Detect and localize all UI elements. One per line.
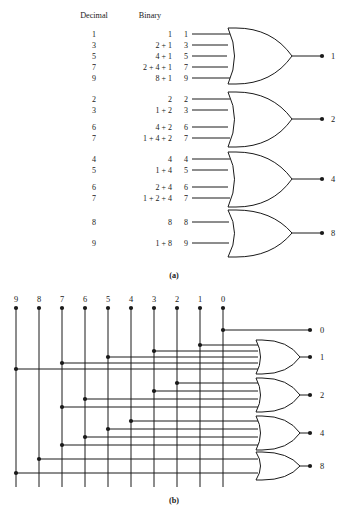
column-terminal: [152, 306, 156, 310]
junction-dot: [129, 419, 133, 423]
junction-dot: [60, 443, 64, 447]
output-terminal: [308, 464, 312, 468]
column-label: 5: [106, 295, 110, 304]
column-terminal: [106, 306, 110, 310]
output-label: 8: [320, 462, 324, 471]
output-terminal: [308, 355, 312, 359]
caption-b: (b): [169, 496, 179, 505]
column-terminal: [83, 306, 87, 310]
junction-dot: [106, 355, 110, 359]
column-label: 0: [221, 295, 225, 304]
column-label: 1: [198, 295, 202, 304]
column-label: 4: [129, 295, 134, 304]
column-label: 8: [37, 295, 41, 304]
output-terminal: [308, 328, 312, 332]
column-label: 2: [175, 295, 179, 304]
column-terminal: [221, 306, 225, 310]
column-label: 9: [14, 295, 18, 304]
junction-dot: [152, 349, 156, 353]
column-terminal: [60, 306, 64, 310]
column-terminal: [175, 306, 179, 310]
output-label: 0: [320, 326, 324, 335]
column-terminal: [14, 306, 18, 310]
part-b-diagram: 9 8 7 6 5 4 3 2 1 0 0: [0, 0, 348, 512]
column-terminal: [198, 306, 202, 310]
column-label: 7: [60, 295, 64, 304]
column-terminal: [129, 306, 133, 310]
junction-dot: [14, 367, 18, 371]
junction-dot: [106, 427, 110, 431]
output-label: 1: [320, 353, 324, 362]
column-label: 6: [83, 295, 87, 304]
column-terminal: [37, 306, 41, 310]
junction-dot: [60, 361, 64, 365]
output-label: 2: [320, 391, 324, 400]
junction-dot: [221, 328, 225, 332]
junction-dot: [83, 397, 87, 401]
junction-dot: [37, 457, 41, 461]
junction-dot: [198, 343, 202, 347]
output-label: 4: [320, 429, 325, 438]
junction-dot: [83, 435, 87, 439]
encoder-figure: Decimal Binary 1 3 5 7 9 1 2 + 1 4 + 1 2…: [0, 0, 348, 512]
junction-dot: [152, 389, 156, 393]
junction-dot: [14, 471, 18, 475]
column-label: 3: [152, 295, 156, 304]
output-terminal: [308, 393, 312, 397]
junction-dot: [60, 405, 64, 409]
junction-dot: [175, 381, 179, 385]
output-terminal: [308, 431, 312, 435]
